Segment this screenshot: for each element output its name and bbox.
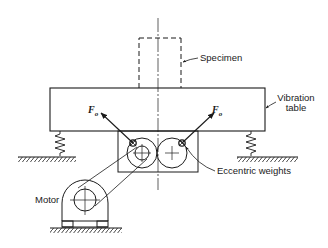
spring-left <box>55 131 65 156</box>
force-label-right: Fo <box>212 104 222 118</box>
motor-label: Motor <box>35 195 59 205</box>
diagram-drawing <box>0 0 328 248</box>
vibration-table-leader <box>266 102 276 108</box>
spring-right <box>246 131 256 156</box>
specimen-leader <box>183 58 198 62</box>
force-arrow-left <box>101 113 133 143</box>
eccentric-weights-leader <box>186 147 215 171</box>
belt-lower <box>95 159 147 206</box>
belt-upper <box>78 147 137 188</box>
specimen-label: Specimen <box>200 53 242 63</box>
vibration-table-label-line2: table <box>276 103 316 113</box>
specimen-shape <box>139 38 181 88</box>
motor-shape <box>62 180 108 227</box>
vibration-table-shape <box>50 88 265 131</box>
eccentric-weights-label: Eccentric weights <box>217 166 291 176</box>
vibration-table-diagram: Specimen Vibration table Eccentric weigh… <box>0 0 328 248</box>
force-label-left: Fo <box>88 104 98 118</box>
